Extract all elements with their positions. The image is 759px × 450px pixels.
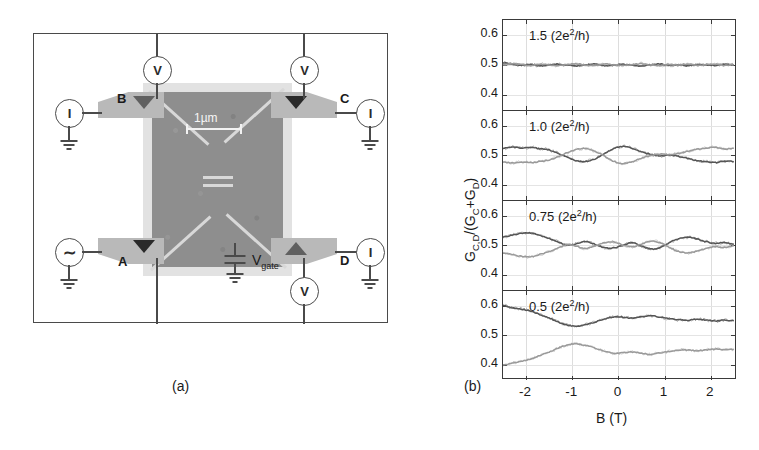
plot-stack: 1.5 (2e2/h)1.0 (2e2/h)0.75 (2e2/h)0.5 (2…	[502, 19, 736, 379]
scale-bar-label: 1µm	[194, 111, 218, 125]
ac-source: ∼	[55, 238, 84, 267]
trace-layer-4	[503, 291, 734, 379]
gate-line-center-bridge	[203, 176, 233, 179]
scale-bar-end-left	[186, 124, 188, 134]
wire-v-topright-up	[303, 33, 305, 57]
wire-ammeter-br-gnd	[369, 265, 371, 279]
y-axis-tick-label: 0.6	[468, 117, 498, 131]
wire-pad-d-to-voltmeter	[303, 258, 305, 278]
y-axis-tick-label: 0.6	[468, 207, 498, 221]
wire-voltmeter-to-bottom-rail	[303, 304, 305, 324]
scale-bar-end-right	[240, 124, 242, 134]
wire-ammeter-right-gnd	[369, 126, 371, 140]
y-axis-tick-label: 0.6	[468, 297, 498, 311]
voltmeter-top-right: V	[290, 56, 319, 85]
terminal-label-c: C	[340, 91, 349, 106]
wire-vgate-bottom	[234, 262, 236, 273]
voltmeter-top-left: V	[143, 56, 172, 85]
subplot-2: 1.0 (2e2/h)	[503, 110, 735, 200]
wire-v-topleft-up	[156, 33, 158, 57]
trace-noise-G_C	[503, 304, 734, 327]
ground-bottom-right-ammeter	[361, 279, 378, 289]
ammeter-left: I	[55, 99, 84, 128]
ammeter-right: I	[356, 99, 385, 128]
trace-layer-3	[503, 201, 734, 289]
trace-G_D	[503, 241, 734, 257]
sem-micrograph: 1µm	[152, 92, 283, 267]
terminal-label-d: D	[340, 253, 349, 268]
terminal-label-b: B	[117, 91, 126, 106]
y-axis-tick-label: 0.4	[468, 356, 498, 370]
ground-left-ammeter	[60, 140, 77, 150]
trace-G_C	[503, 233, 734, 250]
vgate-label-sub: gate	[261, 261, 279, 271]
wire-pad-a-to-bottom-rail	[156, 258, 158, 324]
vgate-label-main: V	[252, 252, 261, 268]
wire-vgate-top	[234, 243, 236, 255]
ammeter-bottom-right-label: I	[369, 245, 373, 260]
voltmeter-top-right-label: V	[300, 63, 309, 78]
y-axis-tick-label: 0.5	[468, 56, 498, 70]
gate-line-center-bridge-lower	[203, 184, 233, 187]
panel-b-magnetoconductance-chart: GC,D/(GC+GD) 1.5 (2e2/h)1.0 (2e2/h)0.75 …	[440, 0, 759, 450]
ground-right-ammeter	[361, 140, 378, 150]
ground-vgate	[226, 273, 243, 283]
wire-v-topright-down	[303, 83, 305, 99]
y-axis-tick-label: 0.5	[468, 147, 498, 161]
y-axis-title-g: G	[462, 251, 478, 262]
wire-ac-to-pad-a	[82, 251, 102, 253]
subcaption-b: (b)	[464, 378, 481, 394]
ground-ac-source	[60, 279, 77, 289]
panel-a-device-schematic: 1µm B C A D V V I	[0, 0, 440, 450]
voltmeter-bottom-right: V	[290, 277, 319, 306]
trace-layer-1	[503, 20, 734, 110]
subplot-4: 0.5 (2e2/h)	[503, 290, 735, 380]
scale-bar-line	[186, 128, 242, 130]
subplot-1: 1.5 (2e2/h)	[503, 20, 735, 110]
y-axis-title-plus: +G	[462, 189, 478, 208]
gate-marker-a	[133, 240, 155, 253]
gate-marker-b	[133, 96, 155, 109]
y-axis-tick-label: 0.4	[468, 266, 498, 280]
y-axis-tick-label: 0.5	[468, 327, 498, 341]
y-axis-tick-label: 0.4	[468, 86, 498, 100]
x-axis-tick-label: -2	[510, 384, 540, 399]
gate-marker-d	[285, 242, 307, 255]
ac-source-symbol: ∼	[63, 243, 76, 262]
trace-noise-G_D	[503, 342, 734, 366]
wire-ammeter-left-gnd	[68, 126, 70, 140]
ammeter-bottom-right: I	[356, 238, 385, 267]
x-axis-tick-label: 2	[695, 384, 725, 399]
y-axis-tick-label: 0.6	[468, 26, 498, 40]
wire-ac-gnd	[68, 265, 70, 279]
subplot-3: 0.75 (2e2/h)	[503, 200, 735, 290]
figure-root: 1µm B C A D V V I	[0, 0, 759, 450]
x-axis-tick-label: 1	[649, 384, 679, 399]
ammeter-left-label: I	[68, 106, 72, 121]
wire-ammeter-left-to-pad	[82, 112, 102, 114]
x-axis-tick-label: 0	[602, 384, 632, 399]
y-axis-tick-label: 0.4	[468, 176, 498, 190]
terminal-label-a: A	[118, 254, 127, 269]
trace-layer-2	[503, 111, 734, 199]
wire-pad-to-ammeter-right	[335, 112, 357, 114]
ammeter-right-label: I	[369, 106, 373, 121]
y-axis-tick-label: 0.5	[468, 237, 498, 251]
x-axis-tick-label: -1	[556, 384, 586, 399]
wire-v-topleft-down	[156, 83, 158, 99]
voltmeter-top-left-label: V	[153, 63, 162, 78]
voltmeter-bottom-right-label: V	[300, 284, 309, 299]
subcaption-a: (a)	[172, 378, 189, 394]
wire-pad-d-to-ammeter	[335, 251, 357, 253]
vgate-label: Vgate	[252, 252, 279, 271]
x-axis-title: B (T)	[596, 410, 627, 426]
